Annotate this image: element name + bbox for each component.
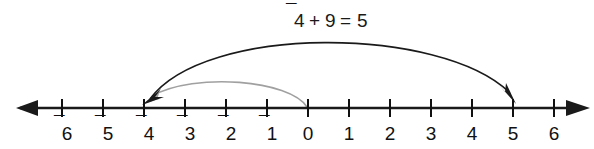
tick-label-1: 1 [344, 123, 355, 144]
tick-label-neg3: ¯ 3 [176, 112, 195, 144]
tick-label-neg1: ¯ 1 [258, 112, 277, 144]
arc-start-jump-path [152, 82, 307, 107]
tick-label-value: 5 [103, 123, 114, 144]
tick-label-neg2: ¯ 2 [217, 112, 236, 144]
tick-label-value: 4 [144, 123, 155, 144]
equation-result: 5 [357, 10, 368, 31]
arc-add-nine-jump-path [150, 43, 509, 99]
equation-second-operand: 9 [325, 10, 336, 31]
tick-label-value: 0 [303, 123, 314, 144]
tick-label-value: 2 [385, 123, 396, 144]
tick-label-value: 1 [344, 123, 355, 144]
equation-first-operand: 4 [294, 10, 305, 31]
axis-left-arrow-icon [16, 100, 38, 116]
tick-label-neg4: ¯ 4 [135, 112, 155, 144]
arc-add-nine-jump [142, 43, 516, 105]
tick-label-value: 6 [549, 123, 560, 144]
tick-label-neg5: ¯ 5 [94, 112, 113, 144]
tick-label-0: 0 [303, 123, 314, 144]
tick-label-6: 6 [549, 123, 560, 144]
axis-tick-labels: ¯ 6 ¯ 5 ¯ 4 ¯ 3 ¯ 2 ¯ 1 [53, 112, 559, 144]
tick-label-neg6: ¯ 6 [53, 112, 72, 144]
tick-label-value: 3 [185, 123, 196, 144]
number-line-svg: ¯ 4 + 9 = 5 [0, 0, 594, 149]
equation-plus-operator: + [309, 10, 321, 31]
axis-right-arrow-icon [566, 100, 590, 116]
tick-label-value: 4 [467, 123, 478, 144]
tick-label-5: 5 [508, 123, 519, 144]
tick-label-3: 3 [426, 123, 437, 144]
tick-label-value: 2 [226, 123, 237, 144]
tick-label-value: 3 [426, 123, 437, 144]
equation-equals-operator: = [340, 10, 352, 31]
tick-label-value: 5 [508, 123, 519, 144]
tick-label-value: 1 [267, 123, 278, 144]
tick-label-2: 2 [385, 123, 396, 144]
equation-annotation: ¯ 4 + 9 = 5 [285, 0, 368, 31]
tick-label-4: 4 [467, 123, 478, 144]
tick-label-value: 6 [62, 123, 73, 144]
number-line-figure: ¯ 4 + 9 = 5 [0, 0, 594, 149]
